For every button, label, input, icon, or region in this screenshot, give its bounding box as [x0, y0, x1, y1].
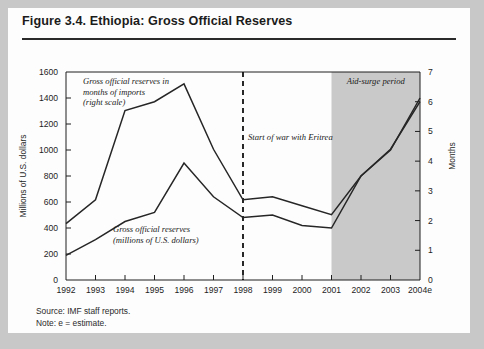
aid-surge-shaded-band — [332, 72, 421, 280]
svg-text:1996: 1996 — [174, 285, 193, 295]
svg-text:0: 0 — [53, 275, 58, 285]
right-axis-title: Months — [447, 142, 457, 169]
chart-plot-area: 02004006008001000120014001600 01234567 1… — [8, 42, 470, 297]
svg-text:2003: 2003 — [381, 285, 400, 295]
svg-text:1997: 1997 — [204, 285, 223, 295]
svg-text:4: 4 — [428, 156, 433, 166]
svg-text:1600: 1600 — [39, 67, 58, 77]
svg-text:3: 3 — [428, 186, 433, 196]
months-series-annotation: Gross official reserves inmonths of impo… — [83, 76, 169, 107]
svg-text:800: 800 — [44, 171, 59, 181]
svg-text:2: 2 — [428, 216, 433, 226]
svg-text:1992: 1992 — [56, 285, 75, 295]
aid-surge-label: Aid-surge period — [346, 76, 406, 86]
figure-card: Figure 3.4. Ethiopia: Gross Official Res… — [8, 8, 470, 333]
svg-text:0: 0 — [428, 275, 433, 285]
usd-series-annotation: Gross official reserves(millions of U.S.… — [113, 224, 199, 245]
gross-official-reserves-line-chart: 02004006008001000120014001600 01234567 1… — [8, 42, 470, 297]
svg-text:600: 600 — [44, 197, 59, 207]
svg-text:1995: 1995 — [145, 285, 164, 295]
figure-title-bar: Figure 3.4. Ethiopia: Gross Official Res… — [22, 14, 456, 40]
svg-text:1200: 1200 — [39, 119, 58, 129]
source-line: Source: IMF staff reports. — [36, 305, 130, 317]
page-title: Figure 3.4. Ethiopia: Gross Official Res… — [22, 14, 456, 28]
svg-text:200: 200 — [44, 249, 59, 259]
svg-text:2000: 2000 — [292, 285, 311, 295]
svg-text:Gross official reserves in: Gross official reserves in — [83, 76, 169, 86]
figure-footnotes: Source: IMF staff reports. Note: e = est… — [36, 305, 130, 329]
title-divider — [22, 38, 456, 40]
svg-text:1: 1 — [428, 245, 433, 255]
war-marker-label: Start of war with Eritrea — [248, 132, 333, 142]
svg-text:1999: 1999 — [263, 285, 282, 295]
left-axis-title: Millions of U.S. dollars — [18, 135, 28, 218]
svg-text:2001: 2001 — [322, 285, 341, 295]
svg-text:months of imports: months of imports — [83, 87, 146, 97]
svg-text:(millions of U.S. dollars): (millions of U.S. dollars) — [113, 235, 199, 245]
svg-text:2002: 2002 — [351, 285, 370, 295]
note-line: Note: e = estimate. — [36, 317, 130, 329]
svg-text:1994: 1994 — [115, 285, 134, 295]
svg-text:1000: 1000 — [39, 145, 58, 155]
svg-text:2004e: 2004e — [408, 285, 432, 295]
svg-text:(right scale): (right scale) — [83, 97, 125, 107]
svg-text:1993: 1993 — [86, 285, 105, 295]
svg-text:1400: 1400 — [39, 93, 58, 103]
svg-text:1998: 1998 — [233, 285, 252, 295]
svg-text:7: 7 — [428, 67, 433, 77]
svg-text:6: 6 — [428, 97, 433, 107]
svg-text:400: 400 — [44, 223, 59, 233]
svg-text:5: 5 — [428, 126, 433, 136]
svg-text:Gross official reserves: Gross official reserves — [113, 224, 191, 234]
